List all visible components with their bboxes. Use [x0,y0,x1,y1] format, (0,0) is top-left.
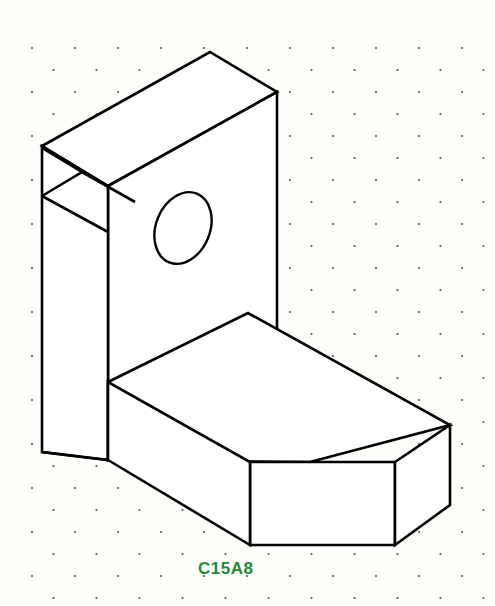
grid-dot [461,355,463,357]
grid-dot [332,355,334,357]
grid-dot [418,399,420,401]
grid-dot [289,575,291,577]
grid-dot [418,355,420,357]
grid-dot [375,311,377,313]
grid-dot [310,69,312,71]
base-right-chamfer-face [395,425,450,545]
grid-dot [396,201,398,203]
grid-dot [439,597,441,599]
grid-dot [117,531,119,533]
grid-dot [396,69,398,71]
grid-dot [31,223,33,225]
grid-dot [461,91,463,93]
grid-dot [267,69,269,71]
grid-dot [267,597,269,599]
isometric-drawing: C15A8 [0,0,495,606]
part-linework [42,52,450,545]
grid-dot [439,289,441,291]
grid-dot [95,69,97,71]
grid-dot [461,311,463,313]
grid-dot [31,311,33,313]
grid-dot [439,377,441,379]
grid-dot [482,597,484,599]
grid-dot [482,245,484,247]
grid-dot [353,201,355,203]
grid-dot [289,267,291,269]
grid-dot [31,531,33,533]
grid-dot [160,575,162,577]
grid-dot [332,311,334,313]
grid-dot [332,135,334,137]
grid-dot [31,135,33,137]
grid-dot [396,553,398,555]
grid-dot [461,267,463,269]
grid-dot [160,47,162,49]
grid-dot [224,553,226,555]
grid-dot [181,553,183,555]
grid-dot [482,509,484,511]
grid-dot [482,333,484,335]
grid-dot [396,597,398,599]
grid-dot [289,47,291,49]
grid-dot [418,311,420,313]
grid-dot [310,201,312,203]
grid-dot [31,267,33,269]
grid-dot [332,179,334,181]
grid-dot [289,91,291,93]
grid-dot [203,47,205,49]
drawing-sheet: C15A8 [0,0,495,606]
grid-dot [375,179,377,181]
grid-dot [461,531,463,533]
grid-dot [375,355,377,357]
grid-dot [31,399,33,401]
grid-dot [461,179,463,181]
grid-dot [482,201,484,203]
grid-dot [375,223,377,225]
grid-dot [52,69,54,71]
grid-dot [31,575,33,577]
grid-dot [95,509,97,511]
grid-dot [31,487,33,489]
grid-dot [461,47,463,49]
grid-dot [353,69,355,71]
grid-dot [31,179,33,181]
grid-dot [31,91,33,93]
grid-dot [439,69,441,71]
base-front-face [250,462,395,545]
grid-dot [418,47,420,49]
grid-dot [418,91,420,93]
grid-dot [267,553,269,555]
grid-dot [138,597,140,599]
grid-dot [418,135,420,137]
grid-dot [482,289,484,291]
grid-dot [396,245,398,247]
grid-dot [418,223,420,225]
grid-dot [332,47,334,49]
grid-dot [482,69,484,71]
grid-dot [332,575,334,577]
grid-dot [74,487,76,489]
grid-dot [396,377,398,379]
grid-dot [138,553,140,555]
grid-dot [138,509,140,511]
grid-dot [310,245,312,247]
grid-dot [461,223,463,225]
grid-dot [332,91,334,93]
grid-dot [224,597,226,599]
grid-dot [375,91,377,93]
grid-dot [310,553,312,555]
grid-dot [396,289,398,291]
grid-dot [375,47,377,49]
grid-dot [375,575,377,577]
vertical-plate-left-face [42,146,108,460]
grid-dot [52,509,54,511]
grid-dot [181,597,183,599]
grid-dot [289,179,291,181]
grid-dot [482,421,484,423]
grid-dot [95,465,97,467]
grid-dot [31,355,33,357]
grid-dot [439,245,441,247]
grid-dot [74,575,76,577]
grid-dot [461,443,463,445]
grid-dot [396,113,398,115]
